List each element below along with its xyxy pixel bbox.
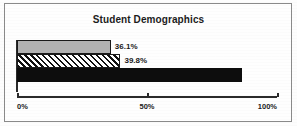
bar-series-2[interactable] bbox=[17, 54, 120, 68]
x-axis: 0% 50% 100% bbox=[17, 96, 277, 97]
x-axis-tick bbox=[277, 93, 279, 97]
bar-series-1[interactable] bbox=[17, 40, 111, 54]
x-axis-tick-label: 0% bbox=[17, 102, 28, 111]
bar-series-3[interactable] bbox=[17, 68, 242, 82]
x-axis-tick-label: 100% bbox=[258, 102, 277, 111]
plot-area: 36.1% 39.8% 86.7% bbox=[17, 40, 277, 96]
bar-value-label-1: 36.1% bbox=[111, 40, 138, 54]
chart-title: Student Demographics bbox=[0, 14, 297, 25]
x-axis-tick bbox=[17, 93, 19, 97]
x-axis-tick-label: 50% bbox=[139, 102, 154, 111]
chart-container: Student Demographics 36.1% 39.8% 86.7% 0… bbox=[0, 0, 297, 126]
bar-value-label-2: 39.8% bbox=[120, 54, 147, 68]
x-axis-tick bbox=[147, 93, 149, 97]
